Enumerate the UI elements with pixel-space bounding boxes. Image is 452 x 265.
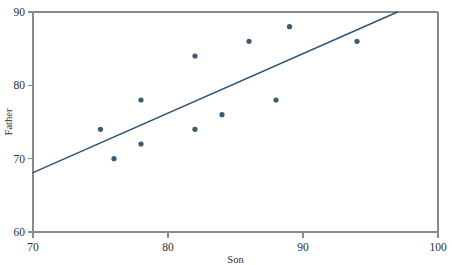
x-tick-label-70: 70	[27, 241, 39, 253]
scatter-plot-figure: Son 75, Father 74Son 76, Father 70Son 78…	[0, 0, 452, 265]
regression-line-path	[33, 12, 398, 173]
y-tick-label-60: 60	[14, 226, 26, 238]
data-point-1: Son 76, Father 70	[111, 156, 116, 161]
data-point-7: Son 86, Father 86	[246, 39, 251, 44]
data-points-group: Son 75, Father 74Son 76, Father 70Son 78…	[98, 24, 360, 161]
y-tick-label-90: 90	[14, 6, 26, 18]
x-axis-title: Son	[227, 254, 244, 265]
y-tick-label-70: 70	[14, 153, 26, 165]
x-tick-label-90: 90	[297, 241, 309, 253]
axis-titles-group: SonFather	[3, 108, 244, 265]
data-point-8: Son 88, Father 78	[273, 97, 278, 102]
y-tick-label-80: 80	[14, 79, 26, 91]
data-point-5: Son 82, Father 74	[192, 127, 197, 132]
y-axis-title: Father	[3, 108, 14, 135]
x-tick-label-80: 80	[162, 241, 174, 253]
tick-labels-group: 60708090708090100	[14, 6, 447, 253]
data-point-3: Son 78, Father 72	[138, 141, 143, 146]
data-point-10: Son 94, Father 86	[354, 39, 359, 44]
ticks-group	[28, 12, 438, 238]
data-point-2: Son 78, Father 78	[138, 97, 143, 102]
data-point-4: Son 82, Father 84	[192, 53, 197, 58]
regression-line	[33, 12, 398, 173]
data-point-0: Son 75, Father 74	[98, 127, 103, 132]
axes-group	[33, 12, 438, 232]
data-point-6: Son 84, Father 76	[219, 112, 224, 117]
data-point-9: Son 89, Father 88	[287, 24, 292, 29]
x-tick-label-100: 100	[429, 241, 447, 253]
plot-canvas: Son 75, Father 74Son 76, Father 70Son 78…	[0, 0, 452, 265]
